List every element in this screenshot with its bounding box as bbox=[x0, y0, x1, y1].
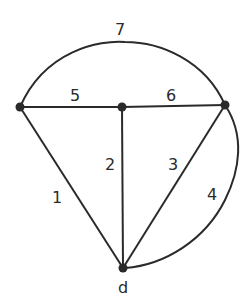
edge-label-5: 5 bbox=[70, 86, 80, 105]
edge-7 bbox=[20, 42, 225, 107]
node-right bbox=[221, 101, 230, 110]
node-label-d: d bbox=[118, 278, 128, 297]
graph-diagram: 7 5 6 2 3 1 4 d bbox=[0, 0, 246, 301]
edge-label-3: 3 bbox=[168, 155, 178, 174]
edge-label-4: 4 bbox=[207, 185, 217, 204]
edge-label-2: 2 bbox=[105, 155, 115, 174]
edge-6 bbox=[122, 105, 225, 107]
node-left bbox=[16, 103, 25, 112]
edge-1 bbox=[20, 107, 123, 268]
edge-2 bbox=[122, 107, 123, 268]
node-d bbox=[119, 264, 128, 273]
edge-label-1: 1 bbox=[52, 188, 62, 207]
edge-4 bbox=[125, 105, 238, 268]
edge-label-6: 6 bbox=[166, 86, 176, 105]
node-mid bbox=[118, 103, 127, 112]
edge-label-7: 7 bbox=[115, 20, 125, 39]
